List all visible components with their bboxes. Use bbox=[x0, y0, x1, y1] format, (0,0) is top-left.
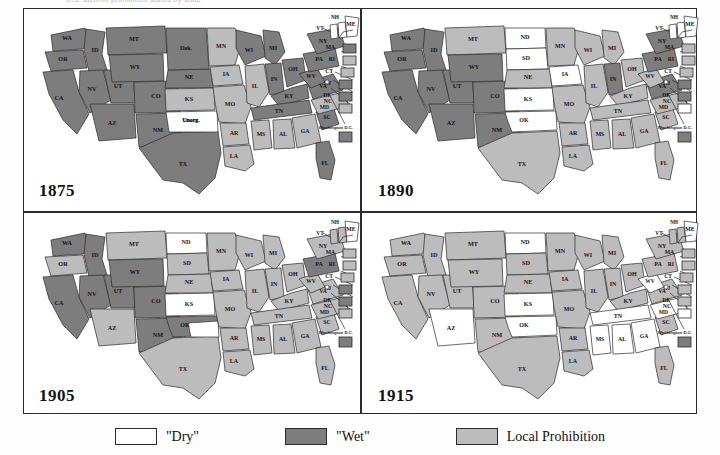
state-label-nh: NH bbox=[331, 14, 340, 20]
state-label-vt: VT bbox=[655, 25, 663, 31]
state-label-oh: OH bbox=[627, 66, 637, 72]
state-label-ut: UT bbox=[114, 287, 123, 294]
state-label-tx: TX bbox=[179, 160, 188, 167]
state-label-mi: MI bbox=[269, 45, 278, 51]
inset-label-de: DE bbox=[323, 92, 331, 98]
inset-box-ri bbox=[343, 56, 356, 65]
state-label-wv: WV bbox=[645, 278, 654, 284]
state-label-nh: NH bbox=[670, 14, 679, 20]
inset-label-ri: RI bbox=[329, 261, 335, 267]
state-label-ia: IA bbox=[562, 276, 569, 282]
state-label-al: AL bbox=[618, 131, 626, 137]
inset-box-ri bbox=[682, 56, 695, 65]
state-la bbox=[223, 145, 254, 171]
state-label-nm: NM bbox=[153, 331, 163, 338]
state-label-wi: WI bbox=[584, 252, 593, 258]
state-label-vt: VT bbox=[655, 230, 663, 236]
state-label-ok: OK bbox=[519, 117, 529, 123]
state-label-pa: PA bbox=[654, 56, 662, 62]
state-label-id: ID bbox=[431, 46, 438, 53]
inset-label-dc: Washington D.C. bbox=[319, 330, 353, 335]
state-label-dak: Dak. bbox=[180, 45, 193, 51]
state-label-al: AL bbox=[279, 336, 287, 342]
state-label-ne: NE bbox=[524, 278, 533, 285]
wet-swatch bbox=[285, 428, 327, 445]
dc-location-marker bbox=[664, 285, 668, 289]
state-label-ks: KS bbox=[185, 300, 194, 307]
state-la bbox=[223, 350, 254, 376]
state-label-ca: CA bbox=[55, 299, 64, 306]
state-label-id: ID bbox=[92, 46, 99, 53]
dc-location-marker bbox=[664, 80, 668, 84]
inset-box-md bbox=[678, 309, 691, 318]
state-label-wy: WY bbox=[130, 268, 141, 275]
state-label-il: IL bbox=[252, 83, 258, 89]
year-label-1890: 1890 bbox=[378, 181, 414, 201]
state-label-nh: NH bbox=[331, 219, 340, 225]
state-vt bbox=[669, 229, 677, 244]
state-label-il: IL bbox=[591, 83, 597, 89]
state-label-la: LA bbox=[230, 358, 239, 364]
legend-item-dry: "Dry" bbox=[115, 428, 199, 445]
inset-label-ct: CT bbox=[325, 273, 333, 279]
state-label-nm: NM bbox=[492, 126, 502, 133]
state-label-ga: GA bbox=[301, 128, 311, 134]
state-label-co: CO bbox=[490, 92, 499, 99]
inset-label-ma: MA bbox=[326, 249, 335, 255]
state-label-mt: MT bbox=[468, 35, 479, 42]
state-ok bbox=[505, 316, 557, 337]
state-label-tn: TN bbox=[275, 313, 284, 319]
state-label-fl: FL bbox=[660, 160, 668, 166]
state-label-co: CO bbox=[490, 297, 499, 304]
inset-box-md bbox=[339, 309, 352, 318]
inset-box-md bbox=[678, 104, 691, 113]
state-label-or: OR bbox=[58, 55, 68, 62]
inset-box-dc bbox=[339, 337, 352, 347]
inset-box-nj bbox=[339, 285, 352, 294]
state-label-nd: ND bbox=[521, 33, 530, 40]
state-label-sd: SD bbox=[522, 54, 530, 61]
state-la bbox=[562, 145, 593, 171]
state-label-ms: MS bbox=[596, 131, 605, 137]
state-label-ut: UT bbox=[114, 82, 123, 89]
dc-location-marker bbox=[325, 285, 329, 289]
inset-label-ri: RI bbox=[329, 56, 335, 62]
inset-label-dc: Washington D.C. bbox=[658, 125, 692, 130]
map-panel-1890: WAORIDMTWYCANVUTCOAZNMTXNDSDNEKSOKMNIAMO… bbox=[362, 8, 699, 211]
state-label-mt: MT bbox=[468, 240, 479, 247]
state-label-ks: KS bbox=[524, 300, 533, 307]
state-label-ia: IA bbox=[562, 71, 569, 77]
state-label-sd: SD bbox=[522, 259, 530, 266]
state-label-oh: OH bbox=[627, 271, 637, 277]
inset-box-ma bbox=[682, 44, 695, 53]
state-label-oh: OH bbox=[288, 271, 298, 277]
inset-label-ma: MA bbox=[665, 249, 674, 255]
state-label-me: ME bbox=[685, 226, 694, 232]
inset-label-ri: RI bbox=[668, 56, 674, 62]
state-label-nh: NH bbox=[670, 219, 679, 225]
state-label-ca: CA bbox=[394, 299, 403, 306]
inset-box-nj bbox=[678, 285, 691, 294]
state-label-az: AZ bbox=[108, 119, 117, 126]
dc-location-marker bbox=[325, 80, 329, 84]
state-label-wa: WA bbox=[401, 34, 412, 41]
state-label-mn: MN bbox=[216, 248, 227, 254]
state-label-sd: SD bbox=[183, 259, 191, 266]
state-label-co: CO bbox=[151, 297, 160, 304]
inset-box-ma bbox=[343, 249, 356, 258]
state-label-wi: WI bbox=[584, 47, 593, 53]
state-label-ne: NE bbox=[185, 278, 194, 285]
local-prohibition-swatch bbox=[456, 428, 498, 445]
state-label-ky: KY bbox=[285, 298, 295, 304]
state-label-wy: WY bbox=[469, 268, 480, 275]
state-label-ia: IA bbox=[223, 276, 230, 282]
inset-label-ct: CT bbox=[325, 68, 333, 74]
state-label-ga: GA bbox=[640, 128, 650, 134]
legend-item-wet: "Wet" bbox=[285, 428, 370, 445]
inset-box-ct bbox=[341, 273, 354, 282]
legend: "Dry" "Wet" Local Prohibition bbox=[23, 420, 697, 453]
map-panel-1905: WAORIDMTWYCANVUTCOAZNMTXNDSDNEKSOKMNIAMO… bbox=[23, 213, 360, 416]
clipped-top-text: U.S. alcohol prohibition status by state bbox=[0, 0, 720, 7]
year-label-1875: 1875 bbox=[39, 181, 75, 201]
state-label-in: IN bbox=[610, 281, 617, 287]
